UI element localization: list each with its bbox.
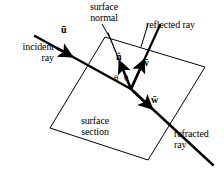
n-hat-vector-label: n̂ (116, 52, 122, 62)
theta-incidence-label: θ (114, 74, 118, 83)
v-bar-vector-arrow (131, 60, 144, 89)
w-bar-vector-label: w̄ (151, 95, 158, 105)
theta-reflection-label: θ (124, 74, 128, 83)
refracted-ray-arrowhead (133, 91, 152, 109)
incident-ray-label: incident ray (0, 42, 54, 63)
v-bar-vector-label: v̄ (144, 58, 149, 68)
u-bar-vector-label: ū (61, 25, 67, 35)
incident-ray-arrowhead (56, 48, 72, 57)
surface-section-label: surface section (62, 116, 128, 137)
surface-normal-label: surface normal (70, 2, 138, 23)
optics-ray-diagram: surface normal reflected ray incident ra… (0, 0, 224, 175)
reflected-ray-label: reflected ray (146, 20, 224, 31)
refracted-ray-label: refracted ray (174, 129, 224, 150)
